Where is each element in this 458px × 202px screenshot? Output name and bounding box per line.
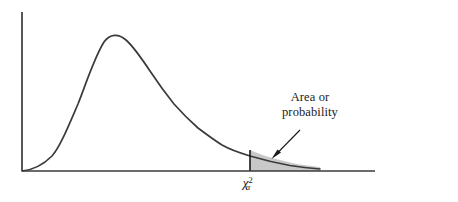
chi-square-plot — [0, 0, 458, 202]
annotation-arrow — [272, 130, 301, 159]
chi-subscript: α — [246, 182, 250, 192]
area-probability-annotation: Area or probability — [262, 90, 358, 120]
area-annotation-line-1: Area or — [262, 90, 358, 105]
critical-value-axis-label: χ2α — [222, 174, 278, 193]
area-annotation-line-2: probability — [262, 105, 358, 120]
chi-square-distribution-figure: Area or probability χ2α — [0, 0, 458, 202]
